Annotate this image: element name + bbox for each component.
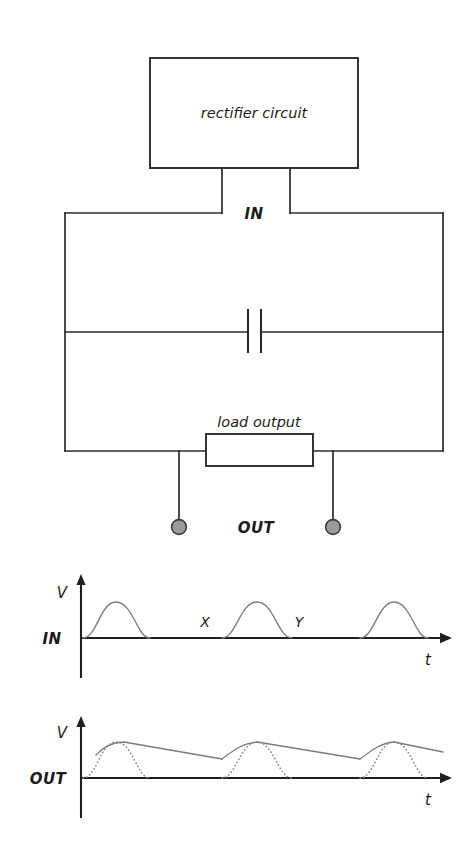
in-chart-y-axis-label: V	[57, 584, 69, 602]
out-chart-y-axis-label: V	[57, 724, 69, 742]
in-chart-x-axis-label: t	[425, 651, 432, 669]
output-terminal-left	[172, 520, 187, 535]
in-chart-y-axis-arrowhead	[76, 574, 85, 585]
in-chart-pulse-3	[360, 602, 428, 638]
out-chart-reference-pulse-1	[83, 742, 150, 778]
out-chart-smoothed-segment-2	[222, 742, 360, 759]
in-chart-x-axis-arrowhead	[440, 633, 452, 643]
input-node-label: IN	[245, 205, 264, 223]
in-chart-pulse-1	[83, 602, 150, 638]
load-block	[206, 434, 313, 466]
out-chart-signal-label: OUT	[30, 770, 68, 788]
in-waveform-chart: V t IN X Y	[43, 574, 452, 678]
in-chart-signal-label: IN	[43, 630, 62, 648]
in-chart-pulse-2	[222, 602, 292, 638]
out-chart-smoothed-segment-1	[96, 742, 222, 759]
rectifier-block-label: rectifier circuit	[201, 105, 309, 121]
out-chart-y-axis-arrowhead	[76, 716, 85, 727]
out-waveform-chart: V t OUT	[30, 716, 452, 818]
load-block-label: load output	[217, 414, 302, 430]
out-chart-x-axis-label: t	[425, 791, 432, 809]
in-chart-annotation-x: X	[199, 614, 210, 630]
output-terminal-right	[326, 520, 341, 535]
out-chart-x-axis-arrowhead	[440, 773, 452, 783]
diagram-canvas: rectifier circuit IN load output	[0, 0, 475, 856]
in-chart-annotation-y: Y	[295, 614, 305, 630]
circuit-schematic: rectifier circuit IN load output	[65, 58, 443, 537]
rectifier-figure: rectifier circuit IN load output	[0, 0, 475, 856]
output-node-label: OUT	[238, 519, 276, 537]
out-chart-reference-pulse-2	[222, 742, 292, 778]
